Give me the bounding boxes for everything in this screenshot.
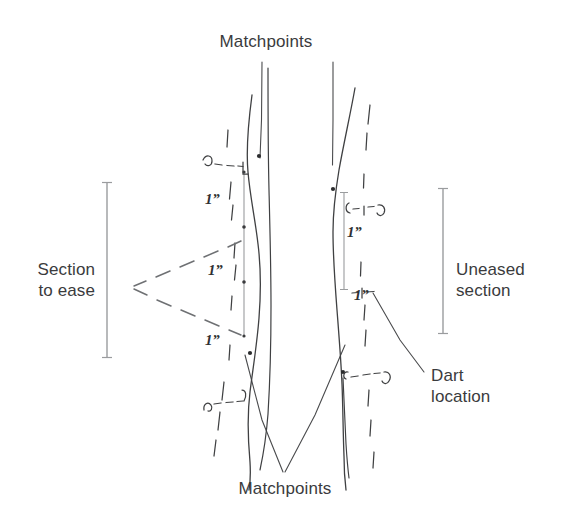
left-dimension-1-label: 1” bbox=[205, 191, 219, 208]
left-dimension-2-label: 1” bbox=[208, 262, 222, 279]
matchpoints-top-label: Matchpoints bbox=[186, 31, 346, 52]
uneased-section-label: Uneased section bbox=[456, 259, 561, 301]
section-to-ease-label: Section to ease bbox=[0, 259, 95, 301]
left-seam-sketch bbox=[247, 68, 271, 490]
section-to-ease-arrow bbox=[134, 241, 241, 335]
right-dimension-2-label: 1” bbox=[354, 287, 368, 304]
section-to-ease-bracket bbox=[102, 182, 112, 358]
easing-diagram: Matchpoints Matchpoints Section to ease … bbox=[0, 0, 563, 528]
left-dimension-guide bbox=[242, 170, 246, 337]
matchpoints-top-leaders bbox=[260, 62, 333, 165]
matchpoints-bottom-label: Matchpoints bbox=[205, 478, 365, 499]
left-dashed-ticks bbox=[214, 130, 236, 456]
right-lower-squiggle-mark bbox=[344, 372, 390, 384]
left-dimension-3-label: 1” bbox=[205, 332, 219, 349]
matchpoints-bottom-leaders bbox=[245, 345, 345, 472]
right-upper-squiggle-mark bbox=[346, 203, 385, 216]
left-lower-squiggle-mark bbox=[204, 390, 246, 411]
left-upper-squiggle-mark bbox=[203, 156, 248, 174]
uneased-section-bracket bbox=[438, 188, 448, 334]
dart-location-leader bbox=[373, 293, 424, 372]
dart-location-label: Dart location bbox=[431, 365, 551, 407]
right-dimension-1-label: 1” bbox=[347, 224, 361, 241]
